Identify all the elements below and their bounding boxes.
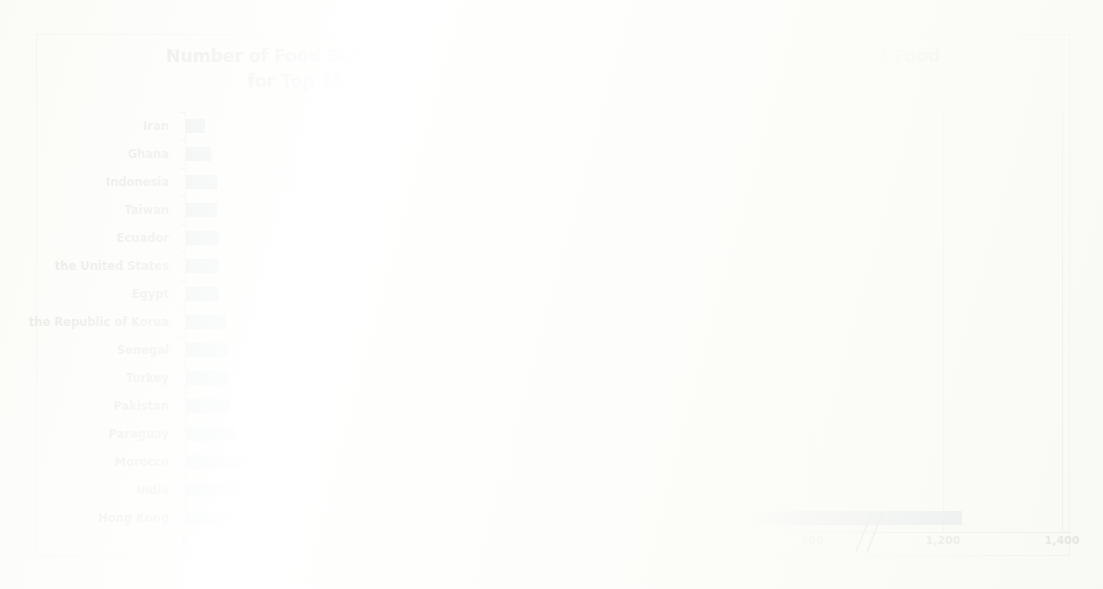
y-tickmark [180,308,185,309]
x-tick-label: 300 [801,534,824,547]
bar-ghana [186,147,211,161]
bar-row [186,280,1071,308]
bar-taiwan [186,203,217,217]
bar-row [186,196,1071,224]
y-tickmark [180,476,185,477]
y-tickmark [180,196,185,197]
y-axis-label-senegal: Senegal [117,336,169,364]
bar-row [186,448,1071,476]
bar-the-republic-of-korea [186,315,226,329]
bar-paraguay [186,427,234,441]
bar-row [186,336,1071,364]
y-axis-label-hong-kong: Hong Kong [98,504,169,532]
bar-row [186,168,1071,196]
chart-title-line-2: for Top 15 Origin Countries (in 1,000,00… [36,69,1070,94]
y-tickmark [180,532,185,533]
y-axis-label-pakistan: Pakistan [113,392,169,420]
bar-egypt [186,287,219,301]
y-tickmark [180,448,185,449]
y-axis-label-the-united-states: the United States [55,252,169,280]
y-axis-label-india: India [137,476,169,504]
y-axis-label-turkey: Turkey [126,364,169,392]
y-axis-label-the-republic-of-korea: the Republic of Korea [29,308,169,336]
bar-hong-kong [186,511,962,525]
y-tickmark [180,504,185,505]
y-axis-label-ecuador: Ecuador [117,224,169,252]
bar-ecuador [186,231,219,245]
y-axis-label-taiwan: Taiwan [124,196,169,224]
x-axis-tick-labels: 0501001502002503001,2001,400 [185,534,1070,556]
x-tick-label: 0 [181,534,189,547]
x-tick-label: 1,200 [926,534,961,547]
bar-row [186,420,1071,448]
bar-senegal [186,343,228,357]
x-tick-label: 200 [592,534,615,547]
bar-the-united-states [186,259,219,273]
scanned-page: Number of Food Safety Alert in EURASFF D… [0,0,1103,589]
bar-pakistan [186,399,230,413]
bar-india [186,483,625,497]
bar-turkey [186,371,228,385]
y-tickmark [180,392,185,393]
bar-row [186,112,1071,140]
bar-iran [186,119,205,133]
bar-row [186,308,1071,336]
y-tickmark [180,168,185,169]
y-axis-label-iran: Iran [143,112,169,140]
bar-row [186,504,1071,532]
y-tickmark [180,112,185,113]
y-axis-label-paraguay: Paraguay [108,420,169,448]
y-tickmark [180,280,185,281]
y-tickmark [180,224,185,225]
bar-row [186,392,1071,420]
y-axis-label-ghana: Ghana [128,140,169,168]
y-tickmark [180,420,185,421]
chart-title-line-1: Number of Food Safety Alert in EURASFF D… [166,46,940,66]
y-tickmark [180,364,185,365]
y-tickmark [180,252,185,253]
x-tick-label: 50 [282,534,297,547]
y-tickmark [180,336,185,337]
chart-title: Number of Food Safety Alert in EURASFF D… [36,44,1070,94]
y-axis-category-labels: IranGhanaIndonesiaTaiwanEcuadorthe Unite… [0,112,178,532]
y-axis-label-egypt: Egypt [132,280,169,308]
bar-morocco [186,455,357,469]
bar-indonesia [186,175,217,189]
x-axis-line [185,532,1070,533]
y-axis-label-indonesia: Indonesia [106,168,169,196]
y-tickmark [180,140,185,141]
bar-row [186,364,1071,392]
bar-row [186,224,1071,252]
x-tick-label: 100 [383,534,406,547]
plot-area [185,112,1070,532]
x-tick-label: 250 [696,534,719,547]
x-tick-label: 150 [487,534,510,547]
bar-row [186,476,1071,504]
bar-row [186,252,1071,280]
x-tick-label: 1,400 [1045,534,1080,547]
y-axis-label-morocco: Morocco [115,448,169,476]
bar-row [186,140,1071,168]
